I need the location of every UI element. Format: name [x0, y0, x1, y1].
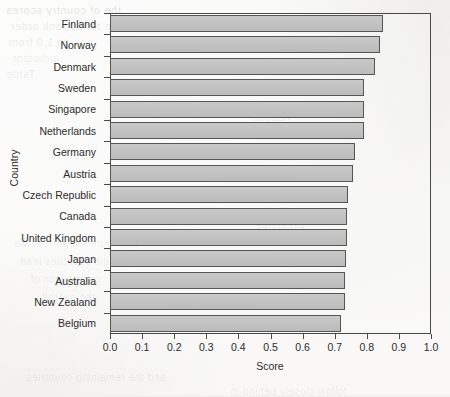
x-axis-tick-label: 0.5: [263, 341, 278, 353]
bar-row: [110, 141, 431, 162]
bar-row: [110, 248, 431, 269]
bar-japan: [110, 250, 346, 267]
x-axis-tick: [431, 334, 432, 339]
y-axis-title: Country: [8, 150, 20, 187]
y-axis-label-germany: Germany: [53, 146, 96, 158]
bar-row: [110, 56, 431, 77]
bar-czech-republic: [110, 186, 348, 203]
bar-row: [110, 184, 431, 205]
bar-new-zealand: [110, 293, 345, 310]
x-axis-tick: [367, 334, 368, 339]
x-axis-tick-label: 0.8: [359, 341, 374, 353]
x-axis-tick: [335, 334, 336, 339]
bar-row: [110, 291, 431, 312]
bar-row: [110, 163, 431, 184]
bar-row: [110, 13, 431, 34]
bar-row: [110, 206, 431, 227]
bar-austria: [110, 165, 353, 182]
bar-series: [110, 13, 431, 334]
y-axis-label-czech-republic: Czech Republic: [22, 189, 96, 201]
y-axis-label-united-kingdom: United Kingdom: [21, 232, 96, 244]
y-axis-label-netherlands: Netherlands: [39, 125, 96, 137]
bar-singapore: [110, 101, 364, 118]
bar-row: [110, 99, 431, 120]
y-axis-label-austria: Austria: [63, 168, 96, 180]
bar-row: [110, 270, 431, 291]
bar-germany: [110, 143, 355, 160]
x-axis-tick: [206, 334, 207, 339]
y-axis-label-new-zealand: New Zealand: [34, 296, 96, 308]
y-axis-label-japan: Japan: [67, 253, 96, 265]
bar-netherlands: [110, 122, 364, 139]
x-axis-tick-label: 0.1: [135, 341, 150, 353]
bar-row: [110, 227, 431, 248]
bar-sweden: [110, 79, 364, 96]
x-axis-tick-label: 0.0: [103, 341, 118, 353]
x-axis-tick: [142, 334, 143, 339]
bar-canada: [110, 208, 347, 225]
y-axis-label-belgium: Belgium: [58, 317, 96, 329]
y-axis-label-australia: Australia: [55, 275, 96, 287]
x-axis-tick-label: 0.4: [231, 341, 246, 353]
bar-norway: [110, 36, 380, 53]
x-axis-tick-label: 0.9: [392, 341, 407, 353]
x-axis-tick-label: 0.3: [199, 341, 214, 353]
bar-row: [110, 313, 431, 334]
x-axis-title: Score: [256, 360, 283, 372]
y-axis-label-finland: Finland: [62, 18, 96, 30]
x-axis-tick: [399, 334, 400, 339]
bar-united-kingdom: [110, 229, 347, 246]
x-axis-tick: [303, 334, 304, 339]
x-axis-tick: [174, 334, 175, 339]
bar-denmark: [110, 58, 375, 75]
x-axis-tick-label: 1.0: [424, 341, 439, 353]
y-axis-label-singapore: Singapore: [48, 103, 96, 115]
bar-row: [110, 120, 431, 141]
y-axis-label-norway: Norway: [60, 39, 96, 51]
y-axis-label-sweden: Sweden: [58, 82, 96, 94]
bar-belgium: [110, 315, 341, 332]
x-axis-tick-label: 0.6: [295, 341, 310, 353]
y-axis-label-canada: Canada: [59, 210, 96, 222]
bar-row: [110, 34, 431, 55]
bar-finland: [110, 15, 383, 32]
x-axis-tick-label: 0.2: [167, 341, 182, 353]
x-axis-tick: [271, 334, 272, 339]
x-axis-tick: [238, 334, 239, 339]
x-axis-tick-label: 0.7: [327, 341, 342, 353]
y-axis-label-denmark: Denmark: [53, 61, 96, 73]
bar-australia: [110, 272, 345, 289]
bar-row: [110, 77, 431, 98]
x-axis-tick: [110, 334, 111, 339]
